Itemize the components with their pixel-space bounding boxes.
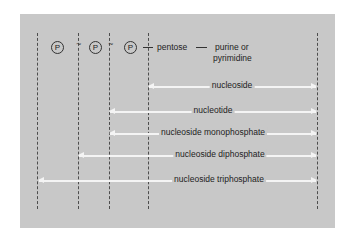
arrowhead-left-icon [38,177,44,183]
nucleoside-label: nucleoside [210,80,255,90]
arrowhead-left-icon [78,152,84,158]
phosphate-1-icon: P [51,41,64,54]
high-energy-bond-2: ~ [108,39,113,49]
nucleoside-triphosphate-arrow: nucleoside triphosphate [39,180,316,182]
nucleoside-triphosphate-label: nucleoside triphosphate [172,174,266,184]
nucleoside-monophosphate-label: nucleoside monophosphate [159,127,267,137]
base-label-line2: pyrimidine [213,53,252,63]
arrowhead-left-icon [148,83,154,89]
phosphate-3-icon: P [124,41,137,54]
boundary-line-3 [109,33,110,209]
nucleotide-arrow: nucleotide [110,111,316,113]
arrowhead-left-icon [109,108,115,114]
boundary-line-4 [148,33,149,209]
nucleoside-arrow: nucleoside [149,86,316,88]
arrowhead-right-icon [311,108,317,114]
nucleotide-label: nucleotide [192,105,235,115]
arrowhead-right-icon [311,152,317,158]
arrowhead-right-icon [311,177,317,183]
base-label-line1: purine or [215,42,249,52]
arrowhead-right-icon [311,83,317,89]
nucleoside-diphosphate-arrow: nucleoside diphosphate [79,155,316,157]
bond-pentose-base [196,47,207,48]
arrowhead-right-icon [311,130,317,136]
phosphate-2-icon: P [89,41,102,54]
boundary-line-2 [78,33,79,209]
boundary-line-5 [317,33,318,209]
nucleoside-diphosphate-label: nucleoside diphosphate [173,149,266,159]
nucleoside-monophosphate-arrow: nucleoside monophosphate [110,133,316,135]
arrowhead-left-icon [109,130,115,136]
bond-phosphate-pentose [143,47,153,48]
high-energy-bond-1: ~ [76,39,81,49]
pentose-label: pentose [157,42,187,52]
